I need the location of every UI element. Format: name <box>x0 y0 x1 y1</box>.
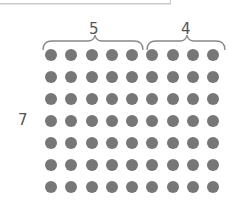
dot <box>167 93 179 105</box>
dot <box>187 137 199 149</box>
dot <box>45 137 57 149</box>
dot <box>126 181 138 193</box>
group-label-4: 4 <box>181 22 191 37</box>
dot <box>86 159 98 171</box>
dot <box>106 181 118 193</box>
dot <box>45 181 57 193</box>
dot <box>167 49 179 61</box>
dot <box>106 115 118 127</box>
dot <box>187 115 199 127</box>
dot <box>106 71 118 83</box>
dot <box>126 115 138 127</box>
braces <box>0 0 238 213</box>
dot <box>86 71 98 83</box>
dot <box>207 71 219 83</box>
dot <box>86 49 98 61</box>
dot <box>86 115 98 127</box>
dot <box>106 93 118 105</box>
dot <box>86 181 98 193</box>
dot <box>207 115 219 127</box>
dot <box>187 71 199 83</box>
dot <box>106 49 118 61</box>
dot <box>187 159 199 171</box>
dot <box>106 159 118 171</box>
dot <box>167 181 179 193</box>
dot <box>45 49 57 61</box>
dot <box>167 71 179 83</box>
dot <box>207 93 219 105</box>
dot <box>106 137 118 149</box>
dot <box>45 115 57 127</box>
dot <box>126 71 138 83</box>
dot <box>207 137 219 149</box>
group-label-5: 5 <box>89 22 99 37</box>
dot <box>207 49 219 61</box>
dot <box>167 137 179 149</box>
dot <box>45 159 57 171</box>
dot <box>126 93 138 105</box>
dot <box>126 49 138 61</box>
dot <box>187 49 199 61</box>
dot <box>45 93 57 105</box>
dot <box>86 93 98 105</box>
dot <box>187 181 199 193</box>
dot <box>187 93 199 105</box>
dot <box>207 181 219 193</box>
dot <box>126 137 138 149</box>
dot <box>45 71 57 83</box>
row-count-label: 7 <box>18 113 28 128</box>
dot <box>207 159 219 171</box>
dot <box>86 137 98 149</box>
dot <box>167 159 179 171</box>
dot <box>167 115 179 127</box>
dot <box>126 159 138 171</box>
